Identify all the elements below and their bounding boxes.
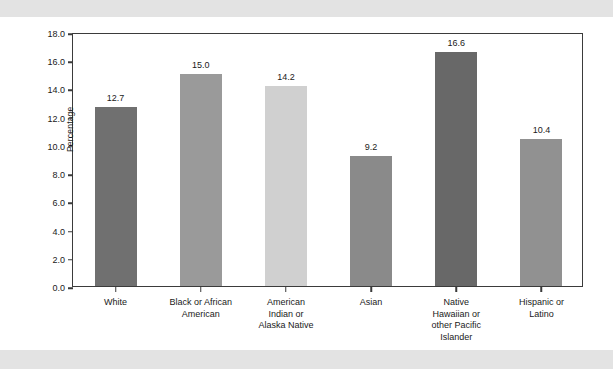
x-axis-category-line: Islander (398, 332, 514, 344)
bar-value-label: 9.2 (365, 142, 378, 152)
x-tick-mark (200, 286, 202, 292)
x-tick-mark (285, 286, 287, 292)
y-tick-label: 6.0 (27, 198, 73, 208)
x-axis-category-line: Hispanic or (483, 297, 599, 309)
y-tick-mark (68, 287, 73, 289)
y-tick-label: 0.0 (27, 283, 73, 293)
bar[interactable] (265, 86, 307, 286)
bar-series: 12.715.014.29.216.610.4 (73, 34, 582, 286)
x-tick-mark (456, 286, 458, 292)
x-axis-category-label: Hispanic orLatino (483, 297, 599, 320)
bar-slot: 9.2 (329, 34, 414, 286)
bar-value-label: 10.4 (533, 125, 551, 135)
bar-slot: 12.7 (73, 34, 158, 286)
bottom-banner-band (0, 350, 613, 369)
bar-value-label: 14.2 (277, 72, 295, 82)
y-tick-label: 2.0 (27, 255, 73, 265)
y-tick-label: 8.0 (27, 170, 73, 180)
y-tick-label: 16.0 (27, 57, 73, 67)
bar-slot: 16.6 (414, 34, 499, 286)
x-axis-category-line: Latino (483, 309, 599, 321)
bar[interactable] (435, 52, 477, 286)
x-tick-mark (541, 286, 543, 292)
bar-value-label: 15.0 (192, 60, 210, 70)
bar[interactable] (180, 74, 222, 286)
top-banner-band (0, 0, 613, 17)
y-tick-label: 18.0 (27, 29, 73, 39)
bar-slot: 10.4 (499, 34, 584, 286)
chart-canvas: Percentage 0.02.04.06.08.010.012.014.016… (0, 17, 613, 350)
x-axis-category-line: other Pacific (398, 320, 514, 332)
bar-slot: 14.2 (243, 34, 328, 286)
x-axis-category-line: Indian or (228, 309, 344, 321)
y-tick-label: 4.0 (27, 227, 73, 237)
bar[interactable] (350, 156, 392, 286)
bar[interactable] (520, 139, 562, 286)
plot-area: Percentage 0.02.04.06.08.010.012.014.016… (72, 33, 583, 287)
x-tick-mark (115, 286, 117, 292)
y-tick-label: 12.0 (27, 114, 73, 124)
x-axis-category-line: Alaska Native (228, 320, 344, 332)
bar-value-label: 16.6 (447, 38, 465, 48)
x-tick-mark (370, 286, 372, 292)
bar-slot: 15.0 (158, 34, 243, 286)
y-tick-label: 14.0 (27, 85, 73, 95)
y-tick-label: 10.0 (27, 142, 73, 152)
bar-value-label: 12.7 (107, 93, 125, 103)
bar[interactable] (95, 107, 137, 286)
